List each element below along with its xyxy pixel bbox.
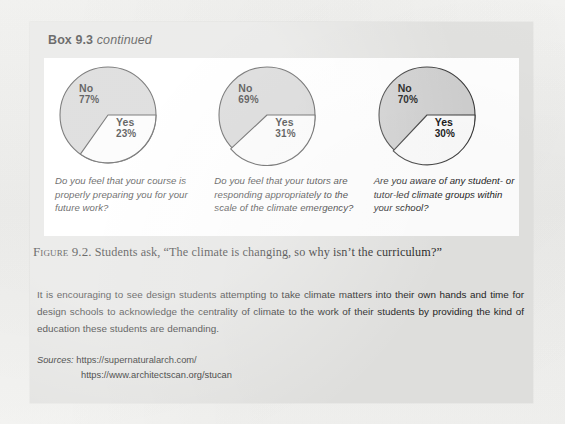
- box-title: Box 9.3 continued: [48, 33, 152, 47]
- pie-2-yes-text: Yes: [275, 116, 293, 128]
- box-title-number: Box 9.3: [48, 33, 93, 47]
- pie-3-no-percent: 70%: [398, 94, 418, 106]
- charts-white-panel: No 77% Yes 23% Do you feel that your cou…: [44, 58, 519, 236]
- sources-block: Sources: https://supernaturalarch.com/ h…: [37, 353, 477, 383]
- scanned-page-background: Box 9.3 continued No 77%: [0, 0, 565, 424]
- figure-caption: Figure 9.2. Students ask, “The climate i…: [33, 244, 530, 260]
- pie-1-yes-percent: 23%: [116, 128, 136, 140]
- pie-3-yes-percent: 30%: [435, 128, 455, 140]
- pie-3-no-label: No 70%: [398, 82, 418, 106]
- pie-2-yes-label: Yes 31%: [275, 116, 295, 140]
- pie-1-no-label: No 77%: [79, 82, 99, 106]
- pie-3-no-text: No: [398, 82, 412, 94]
- body-paragraph: It is encouraging to see design students…: [37, 286, 524, 337]
- chart-3-question-caption: Are you aware of any student- or tutor-l…: [374, 174, 520, 215]
- figure-number: Figure 9.2.: [33, 244, 92, 259]
- box-title-continued: continued: [97, 33, 152, 47]
- box-9-3-panel: Box 9.3 continued No 77%: [30, 22, 533, 403]
- pie-svg-3: [374, 64, 480, 166]
- chart-2-question-caption: Do you feel that your tutors are respond…: [214, 174, 362, 215]
- chart-1-question-caption: Do you feel that your course is properly…: [55, 174, 203, 215]
- pie-1-no-text: No: [79, 82, 93, 94]
- pie-chart-3: No 70% Yes 30%: [374, 64, 480, 166]
- pie-3-yes-text: Yes: [435, 116, 453, 128]
- source-url-1[interactable]: https://supernaturalarch.com/: [76, 355, 196, 365]
- source-url-2[interactable]: https://www.architectscan.org/stucan: [37, 368, 477, 383]
- pie-3-yes-label: Yes 30%: [435, 116, 455, 140]
- chart-cell-2: No 69% Yes 31% Do you feel that your tut…: [202, 58, 360, 215]
- pie-2-yes-percent: 31%: [275, 128, 295, 140]
- figure-caption-text: Students ask, “The climate is changing, …: [95, 245, 442, 259]
- sources-label: Sources:: [37, 355, 74, 365]
- pie-2-no-label: No 69%: [238, 82, 258, 106]
- chart-cell-3: No 70% Yes 30% Are you aware of any stud…: [361, 58, 519, 215]
- pie-2-no-percent: 69%: [238, 94, 258, 106]
- pie-chart-2: No 69% Yes 31%: [214, 64, 320, 166]
- pie-1-yes-label: Yes 23%: [116, 116, 136, 140]
- pie-chart-1: No 77% Yes 23%: [55, 64, 161, 166]
- pie-svg-1: [55, 64, 161, 166]
- charts-row: No 77% Yes 23% Do you feel that your cou…: [44, 58, 519, 236]
- pie-1-no-percent: 77%: [79, 94, 99, 106]
- pie-svg-2: [214, 64, 320, 166]
- pie-1-yes-text: Yes: [116, 116, 134, 128]
- chart-cell-1: No 77% Yes 23% Do you feel that your cou…: [44, 58, 202, 215]
- pie-2-no-text: No: [238, 82, 252, 94]
